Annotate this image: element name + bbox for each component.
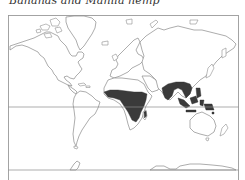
tasmania [206,138,209,141]
shaded-region-islands [212,112,214,114]
central-america-outline [68,85,77,94]
world-map [0,0,245,180]
antarctic-peninsula [70,161,80,170]
shaded-region-indonesia-west [178,98,190,108]
caribbean-island [86,86,90,88]
antarctica-outline [150,164,236,170]
caribbean-island [78,83,86,86]
north-america-outline [10,32,84,86]
arctic-island [40,24,50,30]
arctic-island [55,27,62,33]
arctic-island [36,29,41,33]
south-america-outline [73,91,100,146]
australia-outline [190,112,216,136]
new-zealand [220,124,228,136]
arctic-island [50,18,60,26]
iceland [102,41,108,45]
world-map-svg [0,0,245,180]
tierra-del-fuego [74,146,78,149]
shaded-region-indonesia-java [186,110,196,112]
kamchatka-outline [222,48,226,58]
greenland-outline [66,16,96,50]
shaded-region-sulawesi [200,100,204,106]
shaded-region-philippines [196,88,201,98]
svalbard [126,19,132,24]
novaya-zemlya [150,20,158,28]
siberian-island [190,20,198,24]
